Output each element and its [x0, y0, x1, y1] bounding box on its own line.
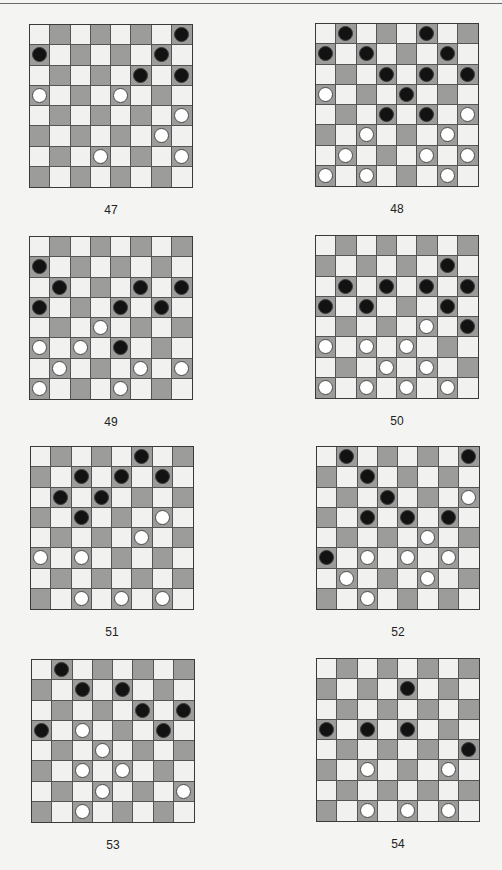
- light-square: [111, 237, 131, 257]
- light-square: [418, 720, 438, 740]
- light-square: [113, 741, 133, 761]
- white-checker-icon: [155, 591, 170, 606]
- white-checker-icon: [75, 804, 90, 819]
- dark-square: [418, 528, 438, 548]
- dark-square: [92, 447, 112, 467]
- white-checker-icon: [420, 530, 435, 545]
- light-square: [397, 105, 417, 125]
- light-square: [172, 126, 192, 146]
- light-square: [172, 338, 192, 358]
- dark-square: [91, 25, 111, 45]
- black-checker-icon: [359, 299, 374, 314]
- light-square: [317, 488, 337, 508]
- white-checker-icon: [359, 380, 374, 395]
- light-square: [91, 126, 111, 146]
- light-square: [72, 488, 92, 508]
- dark-square: [72, 508, 92, 528]
- light-square: [111, 106, 131, 126]
- light-square: [337, 467, 357, 487]
- white-checker-icon: [93, 320, 108, 335]
- white-checker-icon: [440, 168, 455, 183]
- white-checker-icon: [461, 490, 476, 505]
- dark-square: [73, 680, 93, 700]
- puzzle-number: 48: [315, 202, 479, 216]
- dark-square: [152, 338, 172, 358]
- light-square: [337, 760, 357, 780]
- dark-square: [316, 166, 336, 186]
- dark-square: [52, 741, 72, 761]
- light-square: [417, 337, 437, 357]
- dark-square: [131, 25, 151, 45]
- dark-square: [358, 508, 378, 528]
- dark-square: [93, 701, 113, 721]
- light-square: [336, 256, 356, 276]
- light-square: [131, 379, 151, 399]
- black-checker-icon: [52, 280, 67, 295]
- dark-square: [459, 569, 479, 589]
- dark-square: [131, 147, 151, 167]
- puzzle-number: 47: [29, 203, 193, 217]
- dark-square: [113, 802, 133, 822]
- light-square: [397, 146, 417, 166]
- dark-square: [458, 277, 478, 297]
- dark-square: [316, 256, 336, 276]
- light-square: [173, 548, 193, 568]
- white-checker-icon: [155, 510, 170, 525]
- light-square: [459, 589, 479, 609]
- dark-square: [111, 298, 131, 318]
- light-square: [71, 318, 91, 338]
- dark-square: [131, 318, 151, 338]
- dark-square: [32, 680, 52, 700]
- white-checker-icon: [115, 763, 130, 778]
- light-square: [357, 358, 377, 378]
- light-square: [52, 802, 72, 822]
- light-square: [52, 761, 72, 781]
- light-square: [438, 146, 458, 166]
- dark-square: [398, 760, 418, 780]
- dark-square: [316, 125, 336, 145]
- puzzle-47: 47: [29, 24, 193, 188]
- light-square: [378, 548, 398, 568]
- black-checker-icon: [441, 510, 456, 525]
- dark-square: [174, 782, 194, 802]
- dark-square: [418, 740, 438, 760]
- light-square: [173, 508, 193, 528]
- light-square: [91, 379, 111, 399]
- white-checker-icon: [400, 803, 415, 818]
- puzzle-53: 53: [31, 659, 195, 823]
- black-checker-icon: [461, 742, 476, 757]
- white-checker-icon: [318, 168, 333, 183]
- light-square: [398, 488, 418, 508]
- dark-square: [173, 447, 193, 467]
- light-square: [439, 528, 459, 548]
- light-square: [439, 700, 459, 720]
- dark-square: [358, 467, 378, 487]
- white-checker-icon: [379, 360, 394, 375]
- checkers-board: [30, 446, 194, 610]
- light-square: [418, 760, 438, 780]
- light-square: [439, 781, 459, 801]
- dark-square: [378, 488, 398, 508]
- light-square: [357, 65, 377, 85]
- dark-square: [316, 297, 336, 317]
- dark-square: [317, 760, 337, 780]
- dark-square: [377, 277, 397, 297]
- puzzle-48: 48: [315, 23, 479, 187]
- dark-square: [132, 488, 152, 508]
- black-checker-icon: [154, 300, 169, 315]
- white-checker-icon: [113, 88, 128, 103]
- light-square: [32, 701, 52, 721]
- dark-square: [377, 105, 397, 125]
- checkers-board: [315, 235, 479, 399]
- dark-square: [173, 569, 193, 589]
- dark-square: [459, 781, 479, 801]
- light-square: [172, 257, 192, 277]
- white-checker-icon: [360, 550, 375, 565]
- light-square: [337, 508, 357, 528]
- light-square: [113, 782, 133, 802]
- dark-square: [52, 782, 72, 802]
- dark-square: [459, 528, 479, 548]
- dark-square: [397, 85, 417, 105]
- dark-square: [418, 781, 438, 801]
- light-square: [459, 801, 479, 821]
